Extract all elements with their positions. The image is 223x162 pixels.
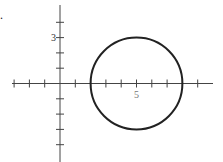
x-tick-label-5: 5 [134, 89, 139, 100]
y-tick-label-3: 3 [51, 32, 56, 43]
coordinate-plane-figure: 3 5 [0, 0, 223, 162]
